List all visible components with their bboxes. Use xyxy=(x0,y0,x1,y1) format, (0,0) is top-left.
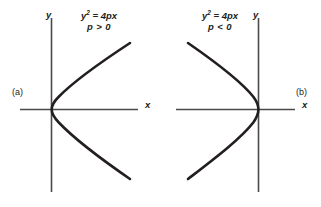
panel-a-y-axis-label: y xyxy=(46,10,51,20)
panel-b-axes xyxy=(176,18,295,192)
panel-a-tag: (a) xyxy=(12,88,23,97)
panel-b-equation-block: y2 = 4px p < 0 xyxy=(181,11,259,33)
panel-a-condition: p > 0 xyxy=(60,22,138,33)
panel-a-axes xyxy=(20,18,138,192)
panel-b-parabola xyxy=(188,43,258,179)
panel-b-x-axis-label: x xyxy=(302,100,307,110)
panel-b-tag: (b) xyxy=(296,88,307,97)
panel-b-equation-rest: = 4px xyxy=(211,10,238,21)
panel-a-equation-block: y2 = 4px p > 0 xyxy=(60,11,138,33)
panel-a-parabola xyxy=(52,43,130,179)
panel-b-condition: p < 0 xyxy=(181,22,259,33)
panel-a-x-axis-label: x xyxy=(145,100,150,110)
panel-a-equation-rest: = 4px xyxy=(90,10,117,21)
figure-canvas xyxy=(0,0,321,207)
parabola-figure: y x (a) y2 = 4px p > 0 y x (b) y2 = 4px … xyxy=(0,0,321,207)
